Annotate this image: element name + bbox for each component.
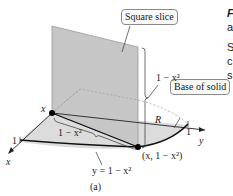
- figure-caption: (a): [90, 182, 101, 192]
- x-axis-label: x: [6, 157, 10, 167]
- region-label: R: [155, 115, 161, 125]
- slice-height-label: 1 − x²: [156, 73, 180, 83]
- point-label: (x, 1 − x²): [142, 151, 182, 161]
- square-slice-callout: Square slice: [121, 9, 178, 25]
- side-text-line-5: s: [227, 70, 233, 81]
- slice-width-label: 1 − x²: [58, 128, 82, 138]
- x-tick-label: 1: [12, 136, 17, 146]
- side-text-line-1: F: [227, 8, 233, 19]
- cross-section-figure: Square slice Base of solid 1 − x² 1 − x²…: [0, 0, 233, 196]
- side-text-line-3: S: [227, 42, 233, 53]
- y-axis-label: y: [199, 136, 203, 146]
- side-text-line-2: a: [227, 22, 233, 33]
- y-tick-label: 1: [186, 127, 191, 137]
- side-text-line-4: c: [227, 56, 233, 67]
- x-point-label: x: [41, 104, 45, 114]
- curve-equation-label: y = 1 − x²: [92, 166, 131, 176]
